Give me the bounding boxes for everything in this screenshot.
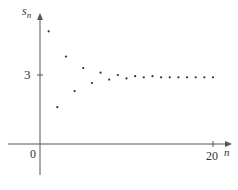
data-point — [99, 72, 101, 74]
y-axis-label: sn — [22, 4, 31, 20]
data-point — [74, 90, 76, 92]
data-point — [186, 76, 188, 78]
x-tick-label-20: 20 — [206, 149, 218, 164]
data-point — [160, 76, 162, 78]
data-points — [48, 30, 215, 108]
data-point — [143, 76, 145, 78]
data-point — [195, 76, 197, 78]
y-tick-label-3: 3 — [24, 67, 31, 83]
data-point — [82, 67, 84, 69]
data-point — [151, 75, 153, 77]
data-point — [91, 82, 93, 84]
origin-label: 0 — [30, 147, 36, 162]
data-point — [56, 106, 58, 108]
data-point — [177, 76, 179, 78]
data-point — [134, 75, 136, 77]
x-axis — [8, 141, 232, 147]
data-point — [125, 77, 127, 79]
data-point — [212, 76, 214, 78]
data-point — [169, 76, 171, 78]
data-point — [108, 79, 110, 81]
data-point — [203, 76, 205, 78]
data-point — [48, 30, 50, 32]
y-axis — [37, 13, 43, 175]
data-point — [65, 56, 67, 58]
x-axis-label: n — [224, 146, 230, 158]
data-point — [117, 74, 119, 76]
